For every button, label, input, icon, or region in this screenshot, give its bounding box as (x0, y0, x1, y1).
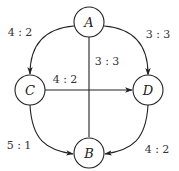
node-d: D (133, 75, 163, 105)
edge-label-a-b: 3 : 3 (95, 55, 120, 68)
edge-d-to-b (105, 105, 148, 154)
edge-label-a-d: 3 : 3 (146, 28, 171, 41)
graph-diagram: 4 : 2 3 : 3 3 : 3 4 : 2 5 : 1 4 : 2 A B … (0, 0, 179, 171)
edge-label-c-b: 5 : 1 (7, 139, 32, 152)
node-a: A (74, 7, 104, 37)
edge-label-a-c: 4 : 2 (8, 26, 33, 39)
node-label-c: C (25, 83, 35, 98)
node-c: C (15, 75, 45, 105)
edge-a-to-c (30, 26, 74, 74)
edge-label-d-b: 4 : 2 (145, 143, 170, 156)
edge-c-to-b (30, 105, 73, 154)
node-label-d: D (142, 83, 154, 98)
node-b: B (74, 138, 104, 168)
node-label-a: A (83, 15, 93, 30)
edge-label-c-d: 4 : 2 (53, 73, 78, 86)
node-label-b: B (83, 146, 94, 161)
